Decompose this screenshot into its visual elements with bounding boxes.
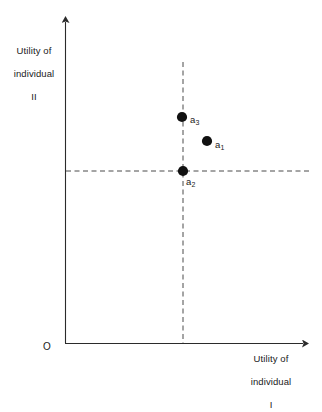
origin-label: O: [43, 341, 51, 352]
data-point-a3: [177, 112, 187, 122]
data-point-label-a2: a2: [186, 176, 195, 187]
x-axis-label-line1: Utility of: [232, 353, 310, 365]
y-axis-label-line2: individual: [6, 68, 62, 80]
data-point-label-a1: a1: [215, 139, 224, 150]
data-point-a1: [202, 136, 212, 146]
data-point-label-a3-sub: 3: [196, 119, 200, 126]
data-point-label-a3: a3: [190, 114, 199, 125]
data-point-label-a1-sub: 1: [221, 144, 225, 151]
data-point-label-a1-base: a: [215, 139, 220, 150]
x-axis-label-line2: individual: [232, 376, 310, 388]
data-point-label-a2-base: a: [186, 176, 191, 187]
y-axis-label: Utility of individual II: [6, 33, 62, 114]
data-point-label-a2-sub: 2: [192, 181, 196, 188]
y-axis-label-line1: Utility of: [6, 45, 62, 57]
data-point-label-a3-base: a: [190, 114, 195, 125]
y-axis-label-line3: II: [6, 91, 62, 103]
data-point-a2: [178, 166, 188, 176]
x-axis-label: Utility of individual I: [232, 341, 310, 412]
x-axis-label-line3: I: [232, 399, 310, 411]
